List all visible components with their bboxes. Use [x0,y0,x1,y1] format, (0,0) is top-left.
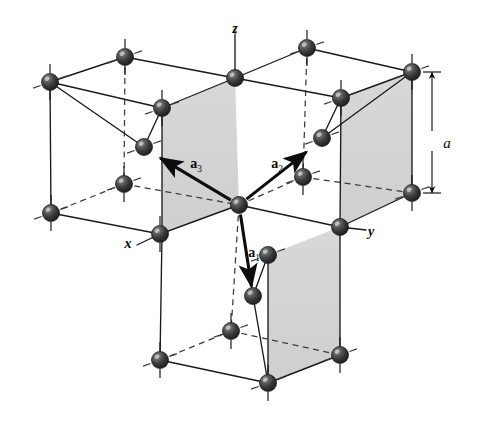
atom-sphere [227,70,244,87]
lattice-tick [251,386,259,389]
atom-sphere [43,205,60,222]
atom-sphere [295,169,312,186]
lattice-tick [421,66,429,69]
lattice-tick [349,349,357,352]
lattice-tick [316,42,324,45]
figure-labels: xyz [124,21,375,251]
lattice-edge [50,82,51,213]
lattice-tick [305,141,313,144]
atom-sphere [332,219,349,236]
lattice-edge [235,78,341,98]
lattice-atom [43,205,60,222]
atom-sphere [260,247,277,264]
lattice-edge [51,213,160,234]
lattice-atom [117,49,134,66]
lattice-atom [260,375,277,392]
atom-sphere [260,375,277,392]
lattice-edge [307,48,412,72]
lattice-tick [331,132,339,135]
lattice-edge [253,296,268,383]
lattice-edge [160,234,162,360]
lattice-tick [312,171,320,174]
lattice-atom [295,169,312,186]
lattice-atom [154,100,171,117]
lattice-edge-hidden [231,205,239,331]
lattice-tick [133,178,141,181]
lattice-tick [324,101,332,104]
lattice-tick [33,85,41,88]
lattice-edge-hidden [303,48,307,177]
atom-sphere [332,347,349,364]
axis-label-z: z [231,21,238,36]
shaded-faces [162,72,412,383]
atom-sphere [299,40,316,57]
lattice-tick [153,141,161,144]
lattice-atom [116,176,133,193]
atom-sphere [223,323,240,340]
lattice-tick [34,216,42,219]
lattice-edge [50,82,144,147]
atom-sphere [152,352,169,369]
lattice-atom [260,247,277,264]
atom-sphere [136,139,153,156]
vector-label-a2: a2 [271,156,283,174]
atom-sphere [116,176,133,193]
lattice-atom [333,90,350,107]
lattice-atom [314,130,331,147]
lattice-edge [239,205,340,227]
axis-label-x: x [124,236,132,251]
atom-sphere [404,64,421,81]
atom-sphere [152,226,169,243]
lattice-atom [136,139,153,156]
lattice-figure: a a1a2a3 xyz [0,0,481,424]
lattice-edge [50,82,162,108]
atom-sphere [231,197,248,214]
atom-sphere [117,49,134,66]
axis-label-y: y [366,224,375,239]
lattice-atom [42,74,59,91]
lattice-atom [299,40,316,57]
lattice-atom [404,185,421,202]
atom-sphere [404,185,421,202]
lattice-atom [245,288,262,305]
lattice-tick [240,325,248,328]
lattice-tick [127,150,135,153]
lattice-tick [421,187,429,190]
lattice-tick [145,111,153,114]
lattice-atom [227,70,244,87]
lattice-atom [332,219,349,236]
lattice-tick [143,363,151,366]
lattice-edge [125,57,235,78]
vector-label-a1: a1 [248,245,260,263]
lattice-edge-hidden [124,57,125,184]
atom-sphere [314,130,331,147]
atom-sphere [245,288,262,305]
dimension-label-a: a [443,135,451,151]
lattice-atom [223,323,240,340]
shaded-face [340,72,412,227]
lattice-atom [152,226,169,243]
lattice-atom [152,352,169,369]
lattice-edge [160,360,268,383]
dimension-indicator: a [423,72,451,193]
lattice-diagram: a a1a2a3 xyz [0,0,481,424]
lattice-atom [404,64,421,81]
lattice-atom [231,197,248,214]
atom-sphere [42,74,59,91]
lattice-tick [134,51,142,54]
atom-sphere [333,90,350,107]
lattice-atom [332,347,349,364]
atom-sphere [154,100,171,117]
